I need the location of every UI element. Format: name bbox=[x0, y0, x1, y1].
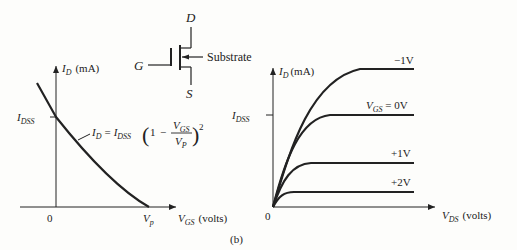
curve-0v bbox=[273, 115, 414, 207]
drain-label: D bbox=[185, 10, 196, 25]
id-axis-label: ID(mA) bbox=[61, 62, 100, 77]
origin-label: 0 bbox=[47, 212, 53, 224]
drain-curves-plot: ID(mA) IDSS −1V VGS = 0V +1V +2V 0 VDS(v… bbox=[231, 54, 492, 224]
substrate-arrow-icon bbox=[182, 55, 189, 60]
svg-text:1: 1 bbox=[150, 126, 156, 138]
left-paren: ( bbox=[142, 122, 149, 147]
denominator: VP bbox=[175, 135, 187, 150]
label-plus-1v: +1V bbox=[391, 147, 411, 159]
svg-text:−: − bbox=[160, 126, 166, 138]
label-minus-1v: −1V bbox=[394, 54, 414, 66]
id-axis-label-right: ID(mA) bbox=[278, 65, 315, 80]
vgs-axis-label: VGS(volts) bbox=[178, 212, 228, 227]
transfer-equation: ID=IDSS ( 1 − VGS VP ) 2 bbox=[91, 119, 204, 150]
exponent: 2 bbox=[199, 122, 204, 132]
idss-label: IDSS bbox=[16, 111, 34, 126]
substrate-label: Substrate bbox=[207, 50, 252, 64]
label-0v: VGS = 0V bbox=[366, 99, 408, 114]
equation-leader bbox=[78, 134, 90, 140]
numerator: VGS bbox=[173, 119, 190, 134]
figure-label: (b) bbox=[230, 233, 243, 246]
figure-canvas: D G S Substrate ID(mA) IDSS 0 Vp VGS(vol… bbox=[0, 0, 517, 250]
label-plus-2v: +2V bbox=[391, 176, 411, 188]
mosfet-symbol: D G S Substrate bbox=[134, 10, 252, 101]
vds-axis-label: VDS(volts) bbox=[442, 209, 492, 224]
vp-label: Vp bbox=[143, 212, 154, 227]
transfer-curve-plot: ID(mA) IDSS 0 Vp VGS(volts) ID=IDSS ( 1 … bbox=[16, 62, 228, 227]
gate-label: G bbox=[134, 58, 144, 73]
svg-text:ID=IDSS: ID=IDSS bbox=[91, 126, 131, 141]
curve-plus-2v bbox=[273, 192, 414, 207]
origin-label-right: 0 bbox=[265, 210, 271, 222]
idss-label-right: IDSS bbox=[231, 109, 249, 124]
transfer-curve bbox=[37, 83, 149, 207]
source-label: S bbox=[186, 86, 193, 101]
